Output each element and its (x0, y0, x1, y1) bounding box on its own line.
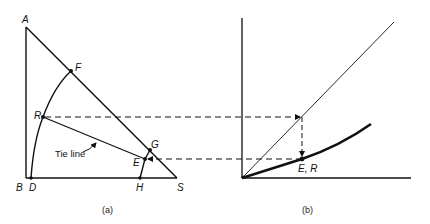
label-e: E (133, 157, 140, 168)
tie-line-label: Tie line (55, 148, 85, 159)
label-a: A (21, 14, 29, 25)
label-er: E, R (298, 163, 317, 174)
extract-curve (140, 150, 150, 178)
label-d: D (29, 182, 36, 193)
caption-a: (a) (102, 205, 113, 215)
label-f: F (75, 62, 82, 73)
label-h: H (136, 182, 144, 193)
caption-b: (b) (302, 205, 313, 215)
point-d (29, 176, 33, 180)
panel-a: A B D H S F R G E Tie line (a) (16, 14, 184, 215)
point-h (138, 176, 142, 180)
point-r (41, 115, 45, 119)
label-g: G (151, 139, 159, 150)
point-er (300, 157, 305, 162)
origin-point (241, 175, 244, 178)
label-s: S (177, 182, 184, 193)
raffinate-curve (31, 71, 71, 178)
point-f (69, 69, 73, 73)
ternary-diagram-figure: A B D H S F R G E Tie line (a) E, R (b) (0, 0, 430, 224)
diagonal-line (242, 22, 394, 178)
label-r: R (34, 110, 41, 121)
point-e (143, 157, 147, 161)
label-b: B (16, 182, 23, 193)
